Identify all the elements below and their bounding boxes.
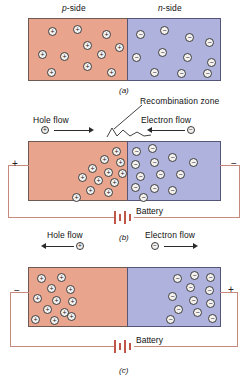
panel-b-letter: (b) — [119, 233, 129, 242]
panel-c-junction — [127, 267, 128, 327]
electron-carrier: − — [190, 271, 199, 280]
electron-carrier: − — [139, 193, 148, 202]
hole-carrier: + — [97, 50, 106, 59]
hole-carrier: + — [110, 178, 119, 187]
panel-c-wire-bottom-right — [134, 346, 238, 347]
panel-b-electron-flow-arrow — [151, 130, 185, 131]
electron-carrier: − — [208, 314, 217, 323]
electron-carrier: − — [150, 158, 159, 167]
pn-junction-figure: p-side n-side + + + + + + + + + + + − − … — [0, 0, 249, 382]
panel-b-hole-flow-arrow — [54, 130, 90, 131]
hole-carrier: + — [100, 155, 109, 164]
electron-carrier: − — [186, 283, 195, 292]
electron-carrier: − — [189, 296, 198, 305]
hole-carrier: + — [78, 173, 87, 182]
panel-b-electron-flow-symbol: − — [187, 126, 195, 134]
electron-carrier: − — [160, 26, 169, 35]
p-side-label: p-side — [62, 3, 86, 13]
panel-c-battery-plate-short — [119, 343, 121, 350]
panel-b-battery-plate-short — [129, 214, 131, 221]
electron-carrier: − — [168, 153, 177, 162]
hole-carrier: + — [67, 312, 76, 321]
panel-b-junction — [127, 141, 128, 201]
panel-b-wire-bottom-left — [8, 217, 114, 218]
electron-carrier: − — [131, 183, 140, 192]
recombination-zone-label: Recombination zone — [140, 96, 219, 106]
hole-carrier: + — [83, 41, 92, 50]
panel-c-electron-flow-arrow — [164, 246, 194, 247]
electron-carrier: − — [148, 144, 157, 153]
hole-carrier: + — [112, 147, 121, 156]
electron-carrier: − — [150, 68, 159, 77]
panel-b-battery-plate-long — [114, 211, 116, 224]
panel-c-letter: (c) — [119, 366, 128, 375]
electron-carrier: − — [174, 305, 183, 314]
hole-carrier: + — [102, 30, 111, 39]
panel-c-left-terminal: − — [14, 286, 20, 296]
hole-carrier: + — [107, 68, 116, 77]
hole-carrier: + — [33, 294, 42, 303]
panel-b-battery-plate-short — [119, 214, 121, 221]
panel-c-hole-flow-arrow — [45, 246, 74, 247]
hole-carrier: + — [43, 305, 52, 314]
panel-b-wire-right-stub — [220, 165, 240, 166]
hole-carrier: + — [52, 296, 61, 305]
electron-carrier: − — [136, 172, 145, 181]
electron-carrier: − — [205, 286, 214, 295]
panel-b-hole-flow-symbol: + — [41, 126, 49, 134]
electron-carrier: − — [156, 170, 165, 179]
electron-carrier: − — [183, 53, 192, 62]
panel-b-electron-flow-label: Electron flow — [141, 115, 191, 125]
hole-carrier: + — [88, 164, 97, 173]
electron-carrier: − — [193, 308, 202, 317]
panel-c-battery-plate-long — [124, 340, 126, 353]
panel-a-letter: (a) — [119, 86, 129, 95]
electron-carrier: − — [168, 292, 177, 301]
electron-carrier: − — [185, 33, 194, 42]
panel-c-battery-plate-short — [129, 343, 131, 350]
electron-carrier: − — [136, 30, 145, 39]
electron-carrier: − — [166, 315, 175, 324]
panel-c-electron-flow-arrowhead — [193, 243, 198, 249]
panel-c-hole-flow-label: Hole flow — [47, 230, 83, 240]
panel-b-wire-right-vertical — [239, 165, 240, 218]
panel-c-electron-flow-symbol: − — [151, 242, 159, 250]
hole-carrier: + — [57, 273, 66, 282]
panel-c-hole-flow-symbol: + — [76, 242, 84, 250]
hole-carrier: + — [66, 285, 75, 294]
electron-carrier: − — [168, 186, 177, 195]
electron-carrier: − — [189, 158, 198, 167]
electron-carrier: − — [158, 48, 167, 57]
hole-carrier: + — [60, 52, 69, 61]
hole-carrier: + — [48, 27, 57, 36]
electron-carrier: − — [207, 58, 216, 67]
recombination-zone-wave — [106, 125, 152, 139]
hole-carrier: + — [72, 193, 81, 202]
panel-b-right-terminal: − — [231, 159, 237, 169]
panel-b-battery-plate-long — [124, 211, 126, 224]
hole-carrier: + — [116, 158, 125, 167]
hole-carrier: + — [68, 297, 77, 306]
n-side-label: n-side — [158, 3, 182, 13]
panel-b-hole-flow-arrowhead — [89, 127, 94, 133]
hole-carrier: + — [38, 50, 47, 59]
electron-carrier: − — [176, 170, 185, 179]
panel-c-battery-label: Battery — [136, 335, 163, 345]
panel-c-battery-plate-long — [114, 340, 116, 353]
panel-b-wire-bottom-right — [134, 217, 240, 218]
panel-c-wire-left-vertical — [10, 292, 11, 347]
electron-carrier: − — [206, 299, 215, 308]
electron-carrier: − — [131, 160, 140, 169]
hole-carrier: + — [104, 188, 113, 197]
hole-carrier: + — [115, 43, 124, 52]
electron-carrier: − — [177, 69, 186, 78]
panel-b-left-terminal: + — [12, 159, 18, 169]
hole-carrier: + — [50, 316, 59, 325]
hole-carrier: + — [31, 315, 40, 324]
electron-carrier: − — [203, 69, 212, 78]
panel-a-junction — [127, 18, 128, 81]
hole-carrier: + — [73, 25, 82, 34]
electron-carrier: − — [205, 38, 214, 47]
panel-b-hole-flow-label: Hole flow — [33, 115, 69, 125]
panel-c-right-terminal: + — [228, 285, 234, 295]
